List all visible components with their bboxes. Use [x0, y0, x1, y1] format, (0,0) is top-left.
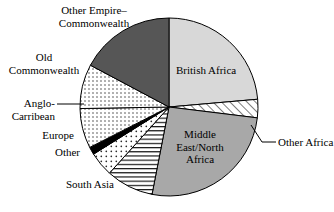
slice-label-europe: Europe	[0, 129, 74, 142]
pie-slices-group	[80, 18, 258, 196]
slice-label-other-empire-line1: Other Empire–	[61, 4, 127, 16]
slice-label-anglo-line2: Carribean	[12, 110, 55, 122]
slice-label-old-commonwealth: Old Commonwealth	[2, 51, 86, 76]
slice-label-south-asia: South Asia	[66, 178, 114, 191]
slice-label-middle-east-line3: Africa	[186, 153, 214, 165]
slice-label-middle-east-north-africa: Middle East/North Africa	[164, 128, 236, 166]
slice-label-middle-east-line1: Middle	[184, 128, 216, 140]
slice-label-middle-east-line2: East/North	[176, 141, 224, 153]
pie-slice-british-africa	[169, 18, 258, 107]
slice-label-anglo-line1: Anglo-	[24, 97, 55, 109]
slice-label-other: Other	[0, 146, 80, 159]
slice-label-old-commonwealth-line2: Commonwealth	[9, 64, 79, 76]
slice-label-other-empire-line2: Commonwealth	[59, 17, 129, 29]
slice-label-british-africa: British Africa	[176, 64, 236, 77]
slice-label-other-africa: Other Africa	[278, 136, 333, 149]
slice-label-old-commonwealth-line1: Old	[36, 51, 53, 63]
pie-chart-figure: Other Empire– Commonwealth Old Commonwea…	[0, 0, 334, 212]
slice-label-anglo-carribean: Anglo- Carribean	[0, 97, 55, 122]
slice-label-other-empire-commonwealth: Other Empire– Commonwealth	[21, 4, 167, 29]
